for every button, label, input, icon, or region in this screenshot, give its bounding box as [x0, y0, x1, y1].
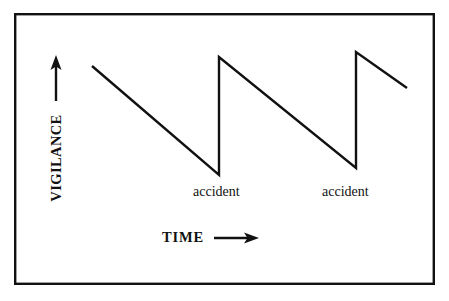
vigilance-axis-arrow-icon	[51, 55, 62, 101]
vigilance-sawtooth-line	[92, 52, 407, 175]
accident-label-2: accident	[322, 185, 369, 199]
figure-border	[15, 14, 434, 284]
vigilance-time-figure: VIGILANCE TIME accident accident	[0, 0, 449, 301]
accident-label-1: accident	[193, 185, 240, 199]
y-axis-label: VIGILANCE	[49, 114, 64, 201]
time-axis-arrow-icon	[214, 233, 259, 244]
figure-canvas	[0, 0, 449, 301]
x-axis-label: TIME	[162, 230, 204, 245]
